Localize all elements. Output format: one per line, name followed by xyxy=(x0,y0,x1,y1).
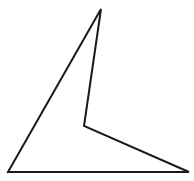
canvas-background xyxy=(0,0,194,181)
polygon-drawing-svg xyxy=(0,0,194,181)
figure-canvas xyxy=(0,0,194,181)
